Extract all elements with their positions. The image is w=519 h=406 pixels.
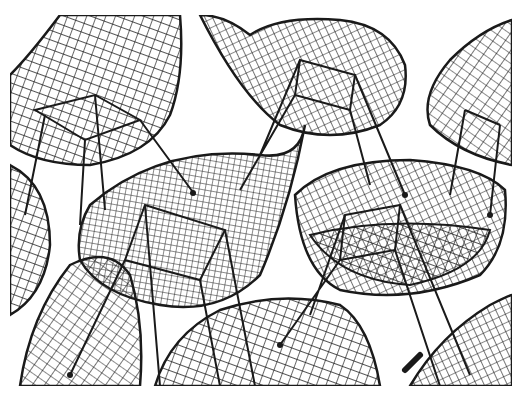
wire-chairs-illustration <box>10 15 512 386</box>
chair-bottom-right <box>405 295 512 386</box>
chair-left-edge <box>10 165 50 315</box>
chair-bottom-center <box>155 299 380 386</box>
photo-frame: Wire mesh chairs <box>10 15 512 386</box>
